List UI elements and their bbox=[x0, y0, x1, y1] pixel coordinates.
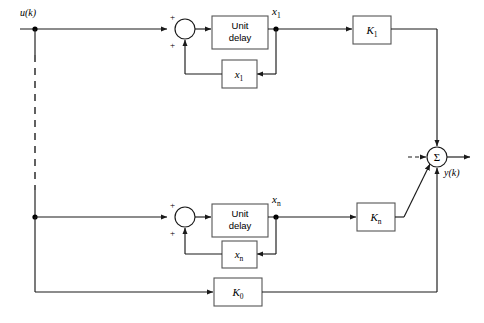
input-signal-label: u(k) bbox=[20, 7, 37, 19]
summing-junction-bottom bbox=[175, 207, 195, 227]
summing-junction-output-symbol: Σ bbox=[434, 151, 440, 163]
summing-junction-bottom-sign-lower: + bbox=[170, 228, 175, 238]
summing-junction-top bbox=[175, 19, 195, 39]
block-unit-delay-top-line2: delay bbox=[229, 32, 252, 43]
summing-junction-top-sign-upper: + bbox=[170, 12, 175, 22]
signal-label-state-top: x1 bbox=[271, 5, 281, 20]
wire-gain-bottom-to-output-sum bbox=[404, 164, 430, 217]
summing-junction-top-sign-lower: + bbox=[170, 40, 175, 50]
block-unit-delay-bottom-line1: Unit bbox=[232, 208, 249, 219]
block-diagram-svg: u(k) + + Unit bbox=[0, 0, 484, 323]
signal-label-state-bottom: xn bbox=[271, 193, 281, 208]
output-signal-label: y(k) bbox=[443, 167, 460, 179]
block-diagram-canvas: u(k) + + Unit bbox=[0, 0, 484, 323]
block-unit-delay-bottom-line2: delay bbox=[229, 220, 252, 231]
block-unit-delay-top-line1: Unit bbox=[232, 20, 249, 31]
summing-junction-bottom-sign-upper: + bbox=[170, 200, 175, 210]
